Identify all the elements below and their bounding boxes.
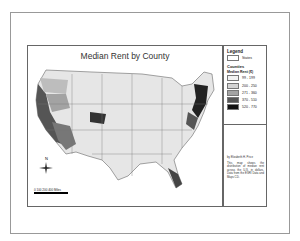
legend-class-row: 520 - 770 <box>227 104 266 110</box>
legend-swatch <box>227 97 239 103</box>
us-county-map <box>32 64 218 192</box>
legend-panel: Legend States Counties Median Rent ($) 9… <box>223 45 267 125</box>
legend-class-row: 271 - 360 <box>227 90 266 96</box>
legend-heading: Legend <box>227 49 266 54</box>
legend-class-row: 200 - 250 <box>227 83 266 89</box>
author-credit: by Elizabeth H. Price <box>227 155 264 159</box>
north-arrow-icon: N <box>36 156 56 178</box>
svg-text:N: N <box>45 156 48 161</box>
legend-class-row: 370 - 510 <box>227 97 266 103</box>
map-title: Median Rent by County <box>28 51 222 61</box>
legend-swatch <box>227 75 239 81</box>
legend-swatch <box>227 104 239 110</box>
legend-swatch <box>227 83 239 89</box>
map-frame: Median Rent by County N 0 100 200 400 Mi… <box>27 45 223 207</box>
legend-field-label: Median Rent ($) <box>227 70 266 74</box>
scale-bar <box>34 192 68 194</box>
states-swatch <box>227 55 239 61</box>
legend-class-row: 99 - 199 <box>227 75 266 81</box>
legend-counties-label: Counties <box>227 64 266 69</box>
legend-states-row: States <box>227 55 266 61</box>
info-panel: by Elizabeth H. Price This map shows the… <box>223 124 267 207</box>
legend-swatch <box>227 90 239 96</box>
map-description: This map shows the distribution of media… <box>227 162 264 179</box>
